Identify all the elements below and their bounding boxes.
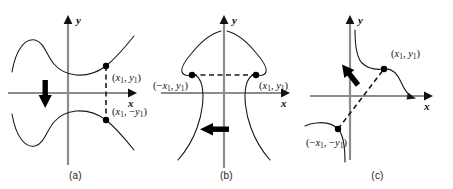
caption-c: (c)	[302, 170, 453, 181]
curve-left-branch-b	[178, 31, 221, 160]
caption-b: (b)	[151, 170, 302, 181]
x-axis-label-b: x	[280, 97, 287, 109]
panel-c-origin-symmetry: y x (x1, y1) (−x1, −y1) (c)	[302, 0, 453, 189]
symmetry-figure: y x (x1, y1) (x1, −y1) (a)	[0, 0, 453, 189]
y-axis-label-b: y	[230, 14, 237, 26]
point-lower-left-c	[335, 126, 341, 132]
caption-a: (a)	[0, 170, 151, 181]
x-axis-label-c: x	[423, 100, 430, 112]
curve-right-branch-b	[227, 31, 270, 160]
y-axis-arrowhead	[64, 15, 73, 24]
axes-group-a	[8, 15, 137, 165]
dashed-connector-c	[338, 69, 384, 129]
point-upper-a	[103, 63, 109, 69]
point-lower-a	[103, 117, 109, 123]
point-label-right-b: (x1, y1)	[259, 80, 289, 93]
y-axis-arrowhead	[220, 15, 229, 24]
point-label-upper-right-c: (x1, y1)	[391, 48, 421, 61]
point-right-b	[253, 72, 259, 78]
curve-upper-branch-c	[355, 30, 412, 97]
y-axis-label-a: y	[74, 14, 81, 26]
point-upper-right-c	[381, 66, 387, 72]
panel-b-y-axis-symmetry: y x (−x1, y1) (x1, y1) (b)	[151, 0, 302, 189]
panel-a-x-axis-symmetry: y x (x1, y1) (x1, −y1) (a)	[0, 0, 151, 189]
y-axis-label-c: y	[356, 14, 363, 26]
point-label-lower-a: (x1, −y1)	[112, 106, 148, 119]
y-axis-arrowhead	[346, 15, 355, 24]
point-left-b	[189, 72, 195, 78]
point-label-upper-a: (x1, y1)	[112, 72, 142, 85]
curve-upper-branch-a	[12, 36, 134, 75]
point-label-left-b: (−x1, y1)	[153, 80, 189, 93]
point-label-lower-left-c: (−x1, −y1)	[306, 137, 347, 150]
